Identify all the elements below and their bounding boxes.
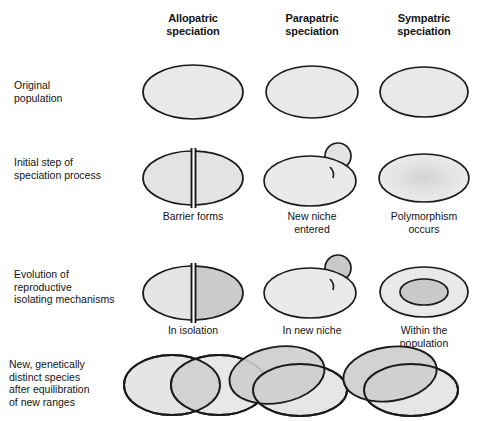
- shape-original-population-sympatric: [380, 67, 468, 117]
- diagram-graphics: [0, 0, 486, 421]
- shape-parapatric-new-niche: [264, 143, 356, 206]
- shape-parapatric-in-new-niche: [264, 255, 356, 318]
- shape-sympatric-polymorphism: [379, 154, 469, 202]
- shape-allopatric-barrier-forms: [143, 148, 243, 208]
- shape-original-population-parapatric: [266, 66, 358, 118]
- shape-sympatric-within-population: [380, 267, 468, 317]
- shape-allopatric-in-isolation: [143, 263, 243, 323]
- shape-original-population-allopatric: [143, 65, 243, 119]
- speciation-diagram: Allopatric speciation Parapatric speciat…: [0, 0, 486, 421]
- shape-sympatric-new-ranges: [340, 341, 458, 416]
